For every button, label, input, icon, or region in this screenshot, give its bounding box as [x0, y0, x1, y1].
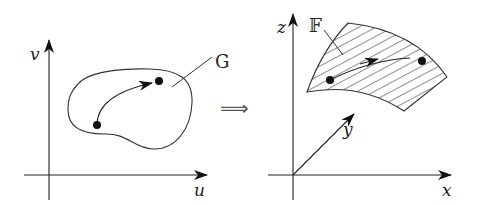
v-axis-label: v	[30, 44, 40, 64]
surface-f-label: 𝔽	[309, 15, 322, 36]
end-point-dot	[155, 77, 163, 85]
surface-end-point-dot	[418, 57, 426, 65]
right-panel: z x y 𝔽	[268, 14, 455, 200]
surface-f	[300, 15, 455, 115]
start-point-dot	[93, 121, 101, 129]
left-panel: v u G	[24, 40, 229, 200]
region-g-leader-line	[172, 57, 212, 87]
y-axis-label: y	[342, 119, 353, 139]
surface-start-point-dot	[326, 76, 334, 84]
z-axis-label: z	[276, 17, 287, 37]
region-g-outline	[68, 69, 192, 149]
x-axis-label: x	[442, 180, 452, 200]
region-g-path	[97, 83, 152, 125]
region-g-label: G	[215, 51, 229, 72]
u-axis-label: u	[194, 180, 205, 200]
implies-arrow: ⟹	[220, 96, 249, 120]
mapping-diagram: v u G ⟹ z x y 𝔽	[0, 0, 477, 205]
